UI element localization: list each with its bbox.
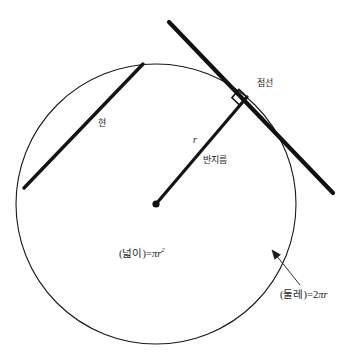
chord-line [24,64,143,188]
diagram-canvas [0,0,362,364]
circumference-formula-prefix: (둘레)= [280,289,313,300]
circumference-formula-label: (둘레)=2πr [280,290,328,301]
area-formula-label: (넓이)=πr2 [119,247,165,259]
circle-geometry-diagram: 현 접선 r 반지름 (넓이)=πr2 (둘레)=2πr [0,0,362,364]
area-formula-prefix: (넓이)= [119,248,152,259]
radius-label: 반지름 [203,156,228,165]
tangent-line [169,22,333,193]
radius-symbol-label: r [193,135,197,145]
tangent-label: 접선 [257,79,273,88]
circumference-formula-variable: r [323,289,327,300]
area-formula-exponent: 2 [161,246,165,254]
radius-line [156,97,247,204]
chord-label: 현 [98,119,106,128]
center-point [152,200,159,207]
